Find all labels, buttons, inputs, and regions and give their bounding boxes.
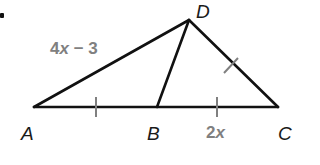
measure-ad: 4x − 3 xyxy=(50,40,98,57)
measure-ad-rest: − 3 xyxy=(69,39,98,58)
measure-bc-var: x xyxy=(215,123,224,142)
measure-bc: 2x xyxy=(206,124,225,141)
measure-ad-var: x xyxy=(59,39,68,58)
vertex-label-c: C xyxy=(278,124,292,143)
vertex-label-d: D xyxy=(196,2,210,21)
vertex-label-b: B xyxy=(147,124,160,143)
segment-ad xyxy=(34,20,189,107)
vertex-label-a: A xyxy=(21,124,34,143)
segment-db xyxy=(157,20,189,107)
